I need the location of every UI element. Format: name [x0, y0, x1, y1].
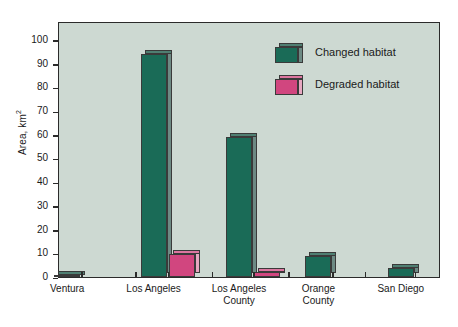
x-axis-tick-mark — [288, 272, 290, 277]
bar — [254, 272, 280, 277]
y-axis-tick-label: 100 — [31, 34, 48, 45]
y-axis-title-exponent: 2 — [15, 110, 22, 114]
x-axis-tick-mark — [415, 272, 417, 277]
y-axis-tick-label: 60 — [37, 129, 48, 140]
x-axis-tick-mark — [168, 272, 170, 277]
y-axis-title-text: Area, km — [17, 114, 28, 155]
bar-front-face — [169, 254, 195, 277]
bar-chart: Area, km2 0102030405060708090100 Changed… — [0, 0, 458, 327]
legend-label: Degraded habitat — [315, 78, 399, 90]
bar-front-face — [305, 256, 331, 277]
legend-item: Degraded habitat — [275, 73, 440, 105]
bar — [169, 254, 195, 277]
legend-swatch-front — [275, 79, 298, 95]
legend-swatch-icon — [275, 75, 303, 95]
bar-front-face — [54, 275, 80, 277]
legend-swatch-side — [298, 79, 303, 95]
y-axis-tick-label: 10 — [37, 247, 48, 258]
legend-swatch-front — [275, 47, 298, 63]
y-axis-tick-label: 30 — [37, 200, 48, 211]
legend-swatch-side — [298, 47, 303, 63]
x-axis-tick-mark — [212, 272, 214, 277]
x-axis-tick-mark — [365, 272, 367, 277]
bar-front-face — [141, 54, 167, 277]
bar — [226, 137, 252, 277]
legend-label: Changed habitat — [315, 46, 396, 58]
bar-front-face — [226, 137, 252, 277]
bar-front-face — [254, 272, 280, 277]
x-axis-tick-mark — [135, 272, 137, 277]
bar — [388, 268, 414, 277]
legend-item: Changed habitat — [275, 41, 440, 73]
x-axis-labels: VenturaLos AngelesLos Angeles CountyOran… — [58, 283, 440, 323]
bar-front-face — [388, 268, 414, 277]
bar-side-face — [252, 133, 257, 273]
x-axis-label: Los Angeles — [108, 283, 200, 295]
x-axis-label: Los Angeles County — [193, 283, 285, 306]
x-axis-label: Orange County — [272, 283, 364, 306]
legend-swatch-icon — [275, 43, 303, 63]
y-axis-tick-label: 70 — [37, 105, 48, 116]
y-axis-tick-label: 80 — [37, 81, 48, 92]
chart-legend: Changed habitatDegraded habitat — [275, 41, 440, 105]
y-axis-tick-label: 50 — [37, 152, 48, 163]
plot-area: Changed habitatDegraded habitat — [58, 22, 440, 278]
x-axis-label: Ventura — [21, 283, 113, 295]
x-axis-tick-mark — [81, 272, 83, 277]
y-axis-tick-label: 0 — [42, 271, 48, 282]
y-axis-tick-label: 90 — [37, 58, 48, 69]
bar-side-face — [167, 50, 172, 273]
y-axis-title: Area, km2 — [17, 88, 28, 178]
y-axis-tick-label: 40 — [37, 176, 48, 187]
bar — [305, 256, 331, 277]
x-axis-tick-mark — [332, 272, 334, 277]
bar — [54, 275, 80, 277]
bar — [141, 54, 167, 277]
y-axis-tick-label: 20 — [37, 224, 48, 235]
x-axis-label: San Diego — [355, 283, 447, 295]
x-axis-tick-mark — [253, 272, 255, 277]
